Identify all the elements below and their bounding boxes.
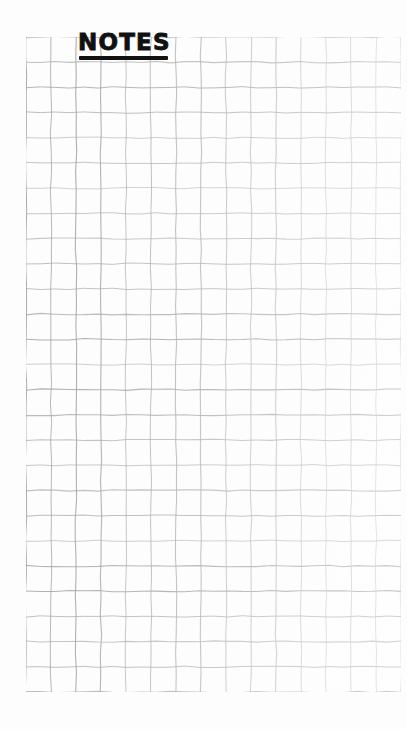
graph-paper-sheet: NOTES [0,0,407,729]
title-underline [79,56,168,60]
notes-page: NOTES [0,0,407,729]
graph-paper-grid[interactable] [26,37,401,692]
grid-lines-svg [26,37,401,692]
page-title: NOTES [78,29,174,55]
page-title-block: NOTES [78,29,174,63]
